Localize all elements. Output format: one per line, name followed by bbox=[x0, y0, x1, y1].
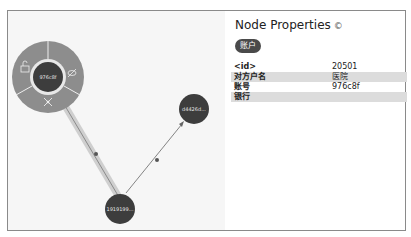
node-type-badge[interactable]: 账户 bbox=[235, 39, 261, 53]
panel-title: Node Properties© bbox=[235, 18, 343, 32]
property-value: 976c8f bbox=[329, 82, 407, 92]
edge-label-marker bbox=[94, 152, 98, 156]
table-row: 对方户名 医院 bbox=[231, 72, 407, 82]
graph-node[interactable]: 1919199... bbox=[105, 194, 135, 224]
node-properties-panel: Node Properties© 账户 <id> 20501 对方户名 医院 账… bbox=[225, 11, 405, 230]
property-key: 账号 bbox=[231, 82, 329, 92]
arrow-head-icon bbox=[179, 121, 184, 127]
graph-node[interactable]: d4426d... bbox=[179, 94, 209, 124]
app-frame: 976c8f d4426d... 1919199... Node Propert… bbox=[7, 10, 406, 231]
properties-table: <id> 20501 对方户名 医院 账号 976c8f 银行 bbox=[231, 62, 407, 102]
table-row: <id> 20501 bbox=[231, 62, 407, 72]
info-icon[interactable]: © bbox=[334, 21, 343, 31]
node-label: 1919199... bbox=[106, 206, 133, 212]
node-label: d4426d... bbox=[182, 106, 206, 112]
property-value: 20501 bbox=[329, 62, 407, 72]
graph-node[interactable]: 976c8f bbox=[33, 62, 63, 92]
property-value bbox=[329, 92, 407, 102]
table-row: 账号 976c8f bbox=[231, 82, 407, 92]
node-label: 976c8f bbox=[39, 74, 56, 80]
edge-n3-n2 bbox=[126, 124, 182, 193]
property-key: 银行 bbox=[231, 92, 329, 102]
graph-canvas[interactable]: 976c8f d4426d... 1919199... bbox=[8, 11, 226, 230]
property-value: 医院 bbox=[329, 72, 407, 82]
property-key: <id> bbox=[231, 62, 329, 72]
table-row: 银行 bbox=[231, 92, 407, 102]
edge-label-marker bbox=[155, 158, 159, 162]
panel-title-text: Node Properties bbox=[235, 18, 331, 32]
property-key: 对方户名 bbox=[231, 72, 329, 82]
